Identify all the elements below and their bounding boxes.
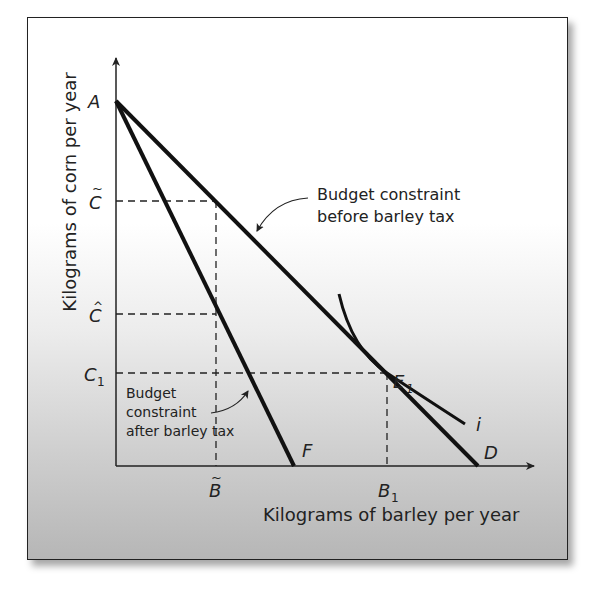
annotation-line: after barley tax: [126, 423, 234, 439]
hat-mark: ^: [93, 300, 103, 314]
annotation-line: Budget constraint: [317, 185, 460, 204]
c-hat-label: C ^: [89, 300, 103, 326]
point-f-label: F: [302, 440, 313, 461]
c1-label: C 1: [84, 364, 105, 389]
b1-label: B 1: [378, 480, 399, 505]
before-tax-pointer-arrow: [257, 198, 308, 231]
point-a-label: A: [87, 91, 100, 112]
tilde-mark: ~: [211, 470, 222, 485]
x-axis-label: Kilograms of barley per year: [263, 504, 520, 525]
e1-letter: E: [393, 371, 405, 392]
b1-letter: B: [378, 480, 390, 501]
indifference-curve-label: i: [476, 414, 481, 435]
tilde-mark: ~: [92, 181, 103, 196]
c-tilde-label: C ~: [89, 181, 103, 213]
annotation-line: Budget: [126, 385, 177, 401]
annotation-line: before barley tax: [317, 207, 455, 226]
e1-subscript: 1: [406, 382, 414, 396]
annotation-line: constraint: [126, 404, 197, 420]
y-axis-label: Kilograms of corn per year: [59, 72, 80, 312]
b-tilde-label: B ~: [209, 470, 222, 501]
c1-subscript: 1: [97, 375, 105, 389]
indifference-curve: [339, 294, 465, 424]
point-d-label: D: [484, 442, 498, 463]
b1-subscript: 1: [391, 491, 399, 505]
c1-letter: C: [84, 364, 97, 385]
before-tax-annotation: Budget constraint before barley tax: [317, 185, 460, 226]
budget-constraint-diagram: Kilograms of corn per year Kilograms of …: [0, 0, 594, 589]
